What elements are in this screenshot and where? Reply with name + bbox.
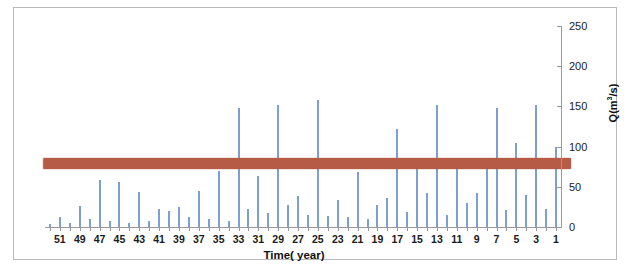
x-axis-tick (189, 227, 190, 231)
x-axis-tick (80, 227, 81, 231)
x-axis-tick-label: 43 (133, 233, 145, 245)
x-axis-tick-label: 1 (553, 233, 559, 245)
x-axis-tick-label: 37 (193, 233, 205, 245)
y-axis-tick-label: 50 (569, 181, 581, 193)
x-axis-tick-label: 9 (474, 233, 480, 245)
y-axis-tick (557, 66, 561, 67)
x-axis-tick-label: 11 (451, 233, 462, 245)
y-axis-tick-label: 250 (569, 20, 587, 32)
chart-figure: 050100150200250 514947454341393735333129… (0, 0, 629, 269)
x-axis-tick (477, 227, 478, 231)
x-axis-tick (437, 227, 438, 231)
x-axis-tick-label: 13 (431, 233, 443, 245)
x-axis: 5149474543413937353331292725232119171513… (45, 227, 562, 228)
x-axis-tick-label: 47 (94, 233, 106, 245)
x-axis-tick (288, 227, 289, 231)
x-axis-tick (248, 227, 249, 231)
x-axis-tick (119, 227, 120, 231)
x-axis-tick (556, 227, 557, 231)
x-axis-tick (199, 227, 200, 231)
y-axis-tick-label: 150 (569, 100, 587, 112)
x-axis-tick (90, 227, 91, 231)
x-axis-tick-label: 45 (114, 233, 126, 245)
x-axis-tick (179, 227, 180, 231)
x-axis-tick (229, 227, 230, 231)
x-axis-tick-label: 7 (494, 233, 500, 245)
y-axis-tick (557, 187, 561, 188)
x-axis-tick-label: 39 (173, 233, 185, 245)
y-axis-tick (557, 147, 561, 148)
x-axis-tick-label: 3 (533, 233, 539, 245)
x-axis-tick (427, 227, 428, 231)
y-axis-title-suffix: /s) (607, 84, 619, 97)
x-axis-tick (70, 227, 71, 231)
x-axis-tick (219, 227, 220, 231)
x-axis-tick (358, 227, 359, 231)
x-axis-tick (169, 227, 170, 231)
x-axis-tick (447, 227, 448, 231)
x-axis-tick-label: 33 (233, 233, 245, 245)
x-axis-tick-label: 17 (391, 233, 403, 245)
x-axis-tick (417, 227, 418, 231)
y-axis-title-prefix: Q(m (607, 100, 619, 122)
x-axis-tick-label: 27 (292, 233, 304, 245)
x-axis-tick (308, 227, 309, 231)
y-axis-tick (557, 106, 561, 107)
x-axis-tick (139, 227, 140, 231)
x-axis-tick (278, 227, 279, 231)
x-axis-tick (546, 227, 547, 231)
x-axis-tick (536, 227, 537, 231)
x-axis-tick (298, 227, 299, 231)
x-axis-tick (387, 227, 388, 231)
x-axis-tick (110, 227, 111, 231)
x-axis-tick (457, 227, 458, 231)
threshold-band (43, 158, 571, 169)
x-axis-tick (328, 227, 329, 231)
x-axis-tick (467, 227, 468, 231)
threshold-band-layer (45, 26, 561, 227)
y-axis-tick (557, 26, 561, 27)
x-axis-tick (60, 227, 61, 231)
x-axis-tick-label: 41 (153, 233, 165, 245)
x-axis-tick (268, 227, 269, 231)
x-axis-tick (258, 227, 259, 231)
x-axis-tick (318, 227, 319, 231)
x-axis-tick (50, 227, 51, 231)
x-axis-tick (516, 227, 517, 231)
x-axis-tick (149, 227, 150, 231)
x-axis-tick (338, 227, 339, 231)
plot-area (45, 26, 561, 227)
x-axis-tick (159, 227, 160, 231)
y-axis-title: Q(m3/s) (606, 84, 619, 123)
x-axis-tick (377, 227, 378, 231)
y-axis-tick-label: 100 (569, 141, 587, 153)
x-axis-tick (526, 227, 527, 231)
x-axis-tick-label: 23 (332, 233, 344, 245)
x-axis-tick (407, 227, 408, 231)
x-axis-tick-label: 21 (352, 233, 364, 245)
x-axis-tick-label: 19 (372, 233, 384, 245)
x-axis-tick-label: 49 (74, 233, 86, 245)
x-axis-tick-label: 15 (411, 233, 423, 245)
x-axis-tick (129, 227, 130, 231)
x-axis-tick-label: 5 (513, 233, 519, 245)
y-axis-title-exponent: 3 (606, 96, 613, 100)
figure-frame: 050100150200250 514947454341393735333129… (13, 7, 617, 260)
y-axis-tick-label: 200 (569, 60, 587, 72)
y-axis-tick-label: 0 (569, 221, 575, 233)
x-axis-tick-label: 31 (253, 233, 265, 245)
x-axis-title: Time( year) (14, 249, 574, 261)
y-axis: 050100150200250 (561, 26, 562, 227)
x-axis-tick (348, 227, 349, 231)
x-axis-tick (397, 227, 398, 231)
x-axis-tick (506, 227, 507, 231)
x-axis-tick (100, 227, 101, 231)
x-axis-tick (239, 227, 240, 231)
x-axis-tick-label: 51 (54, 233, 66, 245)
x-axis-tick-label: 35 (213, 233, 225, 245)
x-axis-tick (368, 227, 369, 231)
x-axis-tick-label: 25 (312, 233, 324, 245)
x-axis-tick (209, 227, 210, 231)
x-axis-tick (487, 227, 488, 231)
x-axis-tick-label: 29 (272, 233, 284, 245)
